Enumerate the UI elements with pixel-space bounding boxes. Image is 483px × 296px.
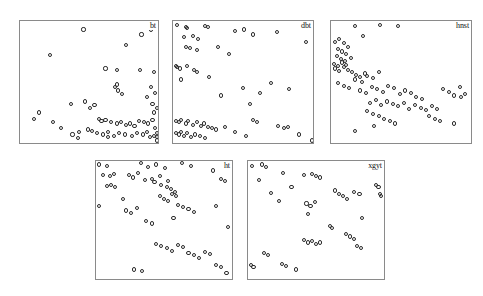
data-point <box>103 118 107 122</box>
data-point <box>131 175 135 179</box>
data-point <box>146 121 150 125</box>
scatter-panel-ht: ht <box>95 160 233 280</box>
data-point <box>174 194 178 198</box>
data-point <box>371 76 375 80</box>
scatter-panel-hnst: hnst <box>330 20 472 144</box>
data-point <box>219 265 223 269</box>
data-point <box>214 204 218 208</box>
data-point <box>51 120 55 124</box>
data-point <box>382 117 386 121</box>
data-point <box>223 179 227 183</box>
data-point <box>306 212 310 216</box>
data-point <box>353 77 357 81</box>
data-point <box>153 126 157 130</box>
data-point <box>92 103 96 107</box>
data-point <box>192 210 196 214</box>
plot-area <box>20 21 158 143</box>
data-point <box>155 138 158 142</box>
data-point <box>284 264 288 268</box>
data-point <box>241 86 245 90</box>
data-point <box>129 211 133 215</box>
data-point <box>186 207 190 211</box>
data-point <box>287 87 291 91</box>
data-point <box>255 120 259 124</box>
data-point <box>171 216 175 220</box>
data-point <box>163 166 167 170</box>
panel-label-hnst: hnst <box>454 21 470 30</box>
data-point <box>304 40 308 44</box>
data-point <box>266 253 270 257</box>
data-point <box>358 88 362 92</box>
data-point <box>206 25 210 29</box>
data-point <box>336 81 340 85</box>
data-point <box>150 102 154 106</box>
data-point <box>185 64 189 68</box>
data-point <box>420 97 424 101</box>
data-point <box>76 136 80 140</box>
data-point <box>155 106 158 110</box>
data-point <box>214 263 218 267</box>
data-point <box>430 104 434 108</box>
data-point <box>165 246 169 250</box>
data-point <box>302 173 306 177</box>
data-point <box>402 101 406 105</box>
data-point <box>191 123 195 127</box>
data-point <box>286 125 290 129</box>
data-point <box>379 194 383 198</box>
panel-label-dbt: dbt <box>299 21 312 30</box>
data-point <box>258 91 262 95</box>
data-point <box>115 68 119 72</box>
data-point <box>438 119 442 123</box>
data-point <box>77 130 81 134</box>
data-point <box>414 95 418 99</box>
data-point <box>95 131 99 135</box>
data-point <box>195 120 199 124</box>
data-point <box>359 246 363 250</box>
data-point <box>374 98 378 102</box>
data-point <box>393 121 397 125</box>
data-point <box>233 29 237 33</box>
data-point <box>251 265 255 269</box>
data-point <box>182 35 186 39</box>
data-point <box>137 119 141 123</box>
data-point <box>403 88 407 92</box>
data-point <box>357 192 361 196</box>
data-point <box>70 132 74 136</box>
data-point <box>185 26 189 30</box>
data-point <box>459 95 463 99</box>
data-point <box>119 120 123 124</box>
data-point <box>170 249 174 253</box>
data-point <box>109 120 113 124</box>
data-point <box>346 45 350 49</box>
data-point <box>158 174 162 178</box>
data-point <box>179 77 183 81</box>
plot-area <box>331 21 471 143</box>
data-point <box>48 53 52 57</box>
data-point <box>108 174 112 178</box>
data-point <box>124 43 128 47</box>
data-point <box>101 132 105 136</box>
data-point <box>195 70 199 74</box>
data-point <box>152 70 156 74</box>
data-point <box>219 93 223 97</box>
data-point <box>37 110 41 114</box>
data-point <box>233 130 237 134</box>
data-point <box>342 41 346 45</box>
data-point <box>353 129 357 133</box>
data-point <box>452 93 456 97</box>
data-point <box>391 102 395 106</box>
data-point <box>223 125 227 129</box>
data-point <box>140 269 144 273</box>
scatter-panel-bt: bt <box>19 20 159 144</box>
data-point <box>186 119 190 123</box>
data-point <box>135 131 139 135</box>
data-point <box>452 121 456 125</box>
data-point <box>211 168 215 172</box>
data-point <box>297 132 301 136</box>
data-point <box>360 80 364 84</box>
data-point <box>337 37 341 41</box>
data-point <box>208 252 212 256</box>
data-point <box>176 203 180 207</box>
data-point <box>289 185 293 189</box>
data-point <box>159 183 163 187</box>
